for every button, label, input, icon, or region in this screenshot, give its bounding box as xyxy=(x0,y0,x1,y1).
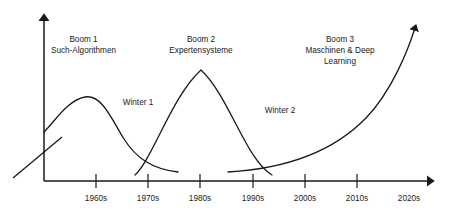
tick-label-2010s: 2010s xyxy=(327,193,387,204)
label-boom2-line2: Expertensysteme xyxy=(145,45,257,56)
tick-label-1960s: 1960s xyxy=(66,193,126,204)
label-boom3-line3: Learning xyxy=(282,56,398,67)
label-boom2-line1: Boom 2 xyxy=(145,34,257,45)
label-boom2: Boom 2 Expertensysteme xyxy=(145,34,257,56)
ai-hype-cycle-diagram: Boom 1 Such-Algorithmen Boom 2 Expertens… xyxy=(0,0,451,216)
label-boom3: Boom 3 Maschinen & Deep Learning xyxy=(282,34,398,67)
label-boom1-line1: Boom 1 xyxy=(26,34,141,45)
label-winter1: Winter 1 xyxy=(108,97,168,108)
baseline-diagonal-line xyxy=(13,137,62,178)
diagram-svg xyxy=(0,0,451,216)
curve-boom2-expertensysteme xyxy=(135,70,272,175)
tick-label-1990s: 1990s xyxy=(223,193,283,204)
label-boom1: Boom 1 Such-Algorithmen xyxy=(26,34,141,56)
tick-label-1970s: 1970s xyxy=(118,193,178,204)
tick-label-2000s: 2000s xyxy=(275,193,335,204)
label-winter2: Winter 2 xyxy=(250,105,310,116)
curve-boom1-such-algorithmen xyxy=(44,97,178,172)
label-boom1-line2: Such-Algorithmen xyxy=(26,45,141,56)
label-boom3-line1: Boom 3 xyxy=(282,34,398,45)
tick-label-1980s: 1980s xyxy=(170,193,230,204)
label-boom3-line2: Maschinen & Deep xyxy=(282,45,398,56)
tick-label-2020s: 2020s xyxy=(379,193,439,204)
